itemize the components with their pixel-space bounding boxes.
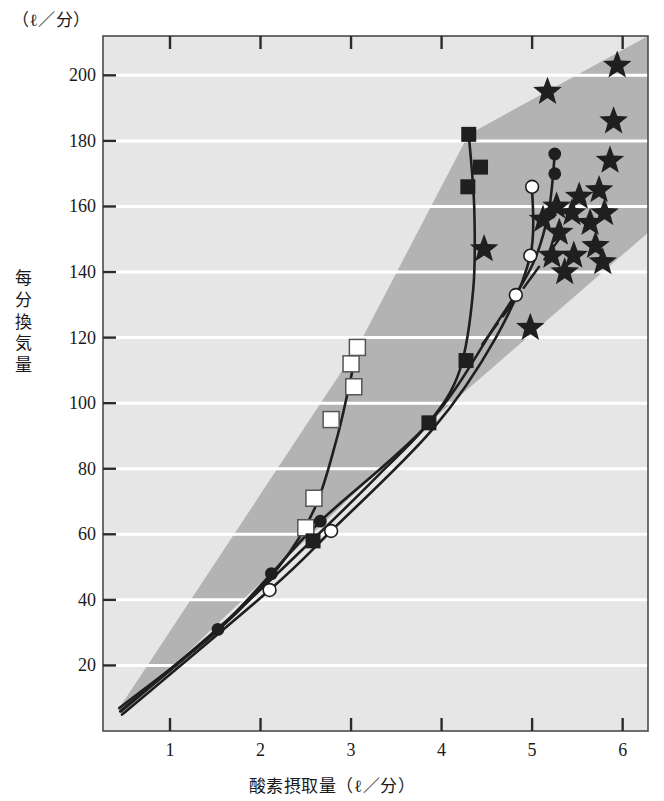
- marker-open-circles-1: [325, 525, 338, 538]
- marker-filled-circles-2: [314, 515, 327, 528]
- marker-filled-circles-6: [548, 167, 561, 180]
- x-axis-title: 酸素摂取量（ℓ／分）: [0, 772, 664, 797]
- marker-open-squares-2: [323, 412, 339, 428]
- marker-filled-squares-3: [460, 179, 475, 194]
- marker-filled-circles-1: [265, 567, 278, 580]
- y-tick-label-180: 180: [44, 130, 96, 151]
- ventilation-vs-oxygen-uptake-chart: （ℓ／分） 每 分 換 気 量 204060801001201401601802…: [0, 0, 664, 801]
- y-tick-label-120: 120: [44, 327, 96, 348]
- y-tick-label-40: 40: [44, 589, 96, 610]
- plot-canvas: [0, 0, 664, 801]
- x-tick-label-6: 6: [603, 740, 643, 761]
- y-axis-title-char-2: 換: [12, 312, 34, 334]
- marker-open-squares-5: [349, 339, 365, 355]
- y-axis-title: 每 分 換 気 量: [12, 268, 34, 377]
- marker-open-circles-3: [524, 249, 537, 262]
- marker-open-squares-3: [346, 379, 362, 395]
- y-tick-label-200: 200: [44, 65, 96, 86]
- y-axis-title-char-0: 每: [12, 268, 34, 290]
- marker-open-circles-0: [263, 584, 276, 597]
- y-axis-title-char-1: 分: [12, 290, 34, 312]
- x-tick-label-5: 5: [512, 740, 552, 761]
- marker-open-squares-0: [298, 520, 314, 536]
- y-axis-title-char-3: 気: [12, 333, 34, 355]
- x-tick-label-4: 4: [422, 740, 462, 761]
- marker-filled-squares-0: [306, 533, 321, 548]
- marker-filled-circles-0: [212, 623, 225, 636]
- x-tick-label-2: 2: [241, 740, 281, 761]
- y-tick-label-60: 60: [44, 524, 96, 545]
- marker-filled-squares-4: [473, 160, 488, 175]
- y-tick-label-140: 140: [44, 262, 96, 283]
- y-axis-tick-labels: 20406080100120140160180200: [34, 0, 96, 801]
- x-tick-label-1: 1: [150, 740, 190, 761]
- y-tick-label-80: 80: [44, 458, 96, 479]
- y-axis-title-char-4: 量: [12, 355, 34, 377]
- marker-filled-squares-2: [459, 353, 474, 368]
- marker-open-circles-2: [509, 289, 522, 302]
- marker-filled-circles-7: [548, 148, 561, 161]
- marker-open-squares-4: [343, 356, 359, 372]
- y-tick-label-20: 20: [44, 655, 96, 676]
- y-tick-label-160: 160: [44, 196, 96, 217]
- marker-open-circles-4: [526, 180, 539, 193]
- marker-filled-circles-3: [423, 416, 436, 429]
- marker-filled-squares-5: [461, 127, 476, 142]
- x-tick-label-3: 3: [331, 740, 371, 761]
- marker-open-squares-1: [306, 490, 322, 506]
- y-tick-label-100: 100: [44, 393, 96, 414]
